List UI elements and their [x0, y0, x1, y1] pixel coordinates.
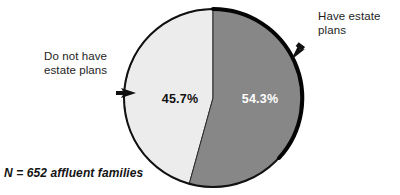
callout-label-do-not-have-estate-plans: Do not have estate plans — [44, 49, 134, 77]
callout-label-have-estate-plans: Have estate plans — [318, 9, 398, 37]
slice-value-have-estate-plans: 54.3% — [232, 92, 288, 106]
sample-size-footnote: N = 652 affluent families — [4, 166, 143, 180]
slice-value-do-not-have-estate-plans: 45.7% — [152, 92, 208, 106]
pie-chart: Have estate plans Do not have estate pla… — [0, 0, 400, 195]
pointer-arrow-right — [291, 42, 305, 60]
